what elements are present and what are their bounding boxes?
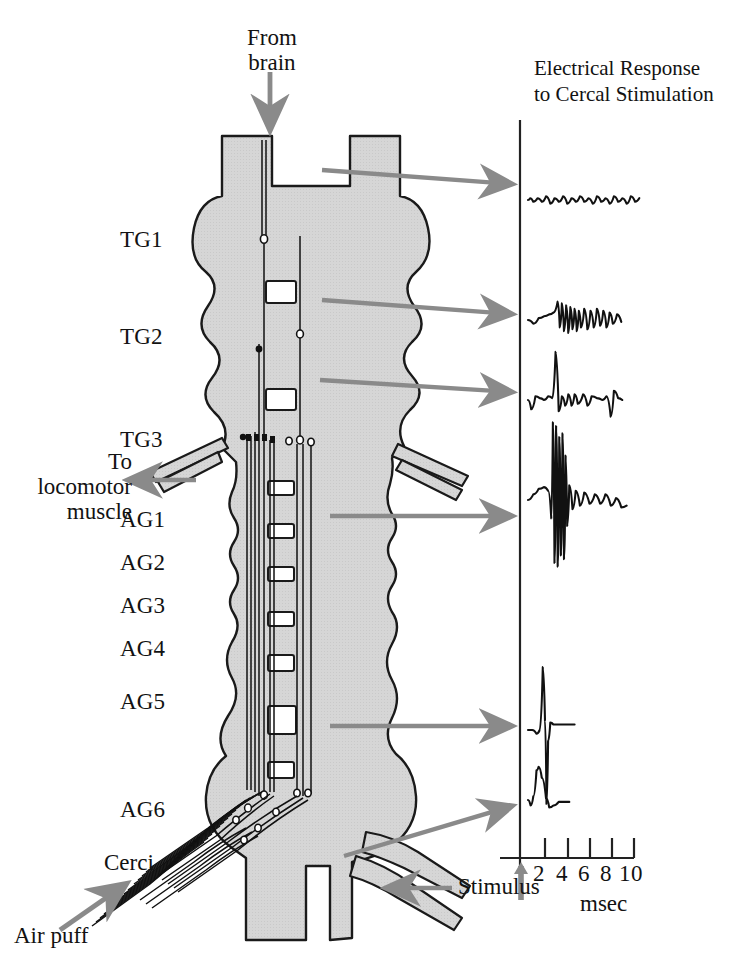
arrow-recording-tg2: [322, 300, 512, 314]
arrow-recording-tg3: [320, 380, 512, 392]
arrow-recording-ag6: [344, 806, 512, 856]
segment-label-ag2: AG2: [120, 551, 165, 576]
recording-site-arrows: [320, 170, 512, 856]
segment-label-tg1: TG1: [120, 228, 163, 253]
trace-ag6: [528, 767, 569, 808]
air-puff-label: Air puff: [14, 924, 88, 949]
to-locomotor-muscle-label: Tolocomotormuscle: [22, 450, 132, 524]
stimulus-label: Stimulus: [458, 875, 540, 900]
electrophysiology-traces: [528, 196, 639, 807]
axis-tick-label-4: 4: [556, 862, 568, 887]
segment-label-ag1: AG1: [120, 508, 165, 533]
from-brain-label: Frombrain: [234, 26, 310, 76]
cerci-label: Cerci: [104, 851, 154, 876]
trace-tg3: [528, 352, 622, 417]
trace-tg1: [528, 196, 639, 203]
segment-label-ag3: AG3: [120, 594, 165, 619]
axis-unit-label: msec: [580, 892, 627, 917]
axis-tick-label-2: 2: [533, 862, 545, 887]
axis-tick-label-8: 8: [600, 862, 612, 887]
segment-label-tg3: TG3: [120, 428, 163, 453]
segment-label-ag4: AG4: [120, 637, 165, 662]
axis-tick-label-10: 10: [619, 862, 643, 887]
chart-title: Electrical Responseto Cercal Stimulation: [534, 56, 714, 107]
trace-tg2: [528, 302, 621, 333]
arrow-recording-tg1: [322, 170, 512, 184]
figure-canvas: Electrical Responseto Cercal Stimulation…: [0, 0, 752, 963]
segment-label-ag6: AG6: [120, 798, 165, 823]
segment-label-ag5: AG5: [120, 690, 165, 715]
segment-label-tg2: TG2: [120, 325, 163, 350]
trace-ag1: [528, 422, 627, 566]
axis-tick-label-6: 6: [578, 862, 590, 887]
